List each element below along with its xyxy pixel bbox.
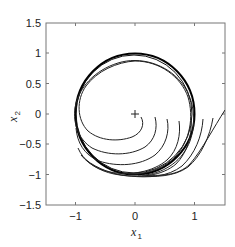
y-tick-label: 1 xyxy=(35,47,41,59)
y-tick-label: −1.5 xyxy=(19,199,41,211)
phase-portrait-chart: −1 0 1 1.5 1 0.5 0 −0.5 −1 −1.5 x 1 x 2 xyxy=(0,0,235,247)
y-tick-label: 0 xyxy=(35,108,41,120)
x-axis-label: x 1 xyxy=(130,225,143,241)
x-tick-label: −1 xyxy=(69,210,82,222)
equilibrium-plus-marker xyxy=(131,110,139,118)
svg-text:2: 2 xyxy=(13,111,22,116)
x-tick-label: 1 xyxy=(191,210,197,222)
y-tick-label: −0.5 xyxy=(19,138,41,150)
trajectory-5 xyxy=(81,121,191,176)
y-axis-label: x 2 xyxy=(6,111,22,124)
x-tick-label: 0 xyxy=(132,210,138,222)
y-tick-label: 1.5 xyxy=(26,17,41,29)
trajectory-3 xyxy=(76,119,168,165)
y-tick-label: 0.5 xyxy=(26,78,41,90)
y-tick-label: −1 xyxy=(28,169,41,181)
trajectories xyxy=(75,54,225,177)
svg-text:x: x xyxy=(6,116,20,123)
svg-text:x: x xyxy=(130,225,137,239)
svg-text:1: 1 xyxy=(138,232,143,241)
